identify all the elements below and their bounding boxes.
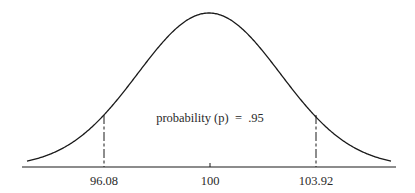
tick-label-lower: 96.08 (90, 174, 118, 188)
chart-canvas: probability (p) = .95 96.08 100 103.92 (0, 0, 415, 193)
tick-label-mean: 100 (201, 174, 220, 188)
bell-curve (27, 13, 391, 161)
normal-distribution-chart: probability (p) = .95 96.08 100 103.92 (0, 0, 415, 193)
tick-label-upper: 103.92 (299, 174, 333, 188)
probability-annotation: probability (p) = .95 (156, 111, 264, 125)
